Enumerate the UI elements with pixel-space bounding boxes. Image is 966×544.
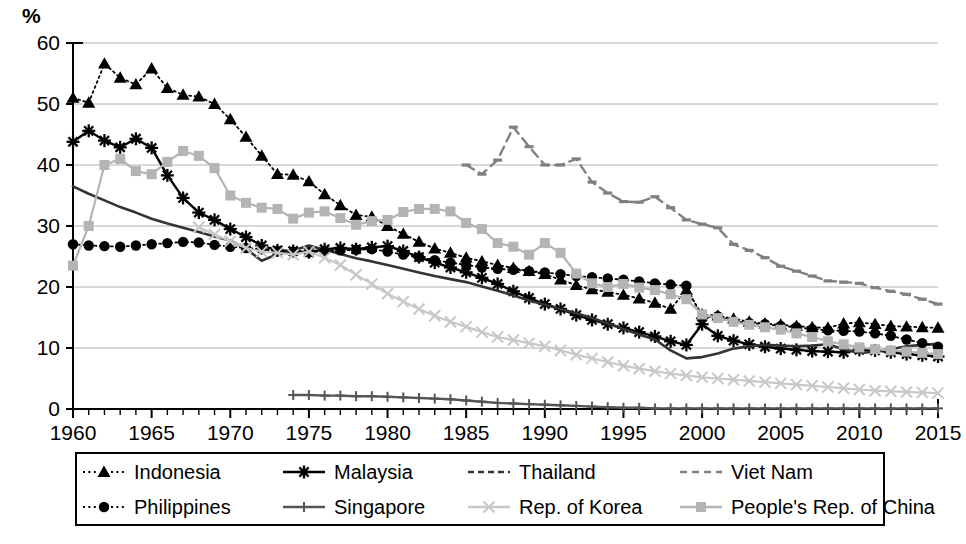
legend-swatch xyxy=(678,497,724,517)
data-marker xyxy=(414,303,425,314)
data-marker xyxy=(304,208,314,218)
data-marker xyxy=(681,294,691,304)
legend-label: Viet Nam xyxy=(731,462,813,482)
data-marker xyxy=(855,282,864,285)
data-marker xyxy=(145,62,158,73)
data-marker xyxy=(475,271,488,284)
data-marker xyxy=(886,403,896,413)
data-marker xyxy=(461,260,471,270)
x-axis-tick-label: 2015 xyxy=(898,422,966,443)
data-marker xyxy=(727,334,740,347)
data-marker xyxy=(445,394,455,404)
light-line-x-marker-icon xyxy=(466,497,512,517)
data-marker xyxy=(178,237,188,247)
data-marker xyxy=(807,332,817,342)
legend-item[interactable]: Thailand xyxy=(466,454,678,489)
dashed-dark-line-icon xyxy=(466,462,512,482)
data-marker xyxy=(696,502,706,512)
legend-label: Philippines xyxy=(134,497,231,517)
data-marker xyxy=(429,310,440,321)
data-marker xyxy=(161,169,174,182)
data-marker xyxy=(320,206,330,216)
legend-item[interactable]: Indonesia xyxy=(81,454,281,489)
data-marker xyxy=(776,325,786,335)
data-marker xyxy=(98,134,111,147)
data-marker xyxy=(664,302,677,313)
x-axis-tick-label: 1960 xyxy=(33,422,113,443)
data-marker xyxy=(650,285,660,295)
legend-swatch xyxy=(466,497,512,517)
data-marker xyxy=(525,145,534,148)
legend-swatch xyxy=(281,497,327,517)
data-marker xyxy=(288,214,298,224)
data-marker xyxy=(934,302,943,305)
legend-item[interactable]: Viet Nam xyxy=(678,454,888,489)
legend-item[interactable]: Philippines xyxy=(81,489,281,524)
data-marker xyxy=(147,169,157,179)
data-marker xyxy=(713,313,723,323)
data-marker xyxy=(115,154,125,164)
data-marker xyxy=(853,316,866,327)
data-marker xyxy=(508,265,518,275)
data-marker xyxy=(288,390,298,400)
data-marker xyxy=(382,246,392,256)
data-marker xyxy=(493,238,503,248)
data-marker xyxy=(178,146,188,156)
legend-item[interactable]: People's Rep. of China xyxy=(678,489,888,524)
data-marker xyxy=(774,342,787,355)
data-marker xyxy=(760,322,770,332)
data-marker xyxy=(854,403,864,413)
data-marker xyxy=(462,163,471,166)
data-marker xyxy=(194,151,204,161)
data-marker xyxy=(68,239,78,249)
x-axis-tick-label: 2010 xyxy=(819,422,899,443)
legend-swatch xyxy=(81,497,127,517)
data-marker xyxy=(461,321,472,332)
data-marker xyxy=(761,256,770,259)
data-marker xyxy=(588,180,597,183)
data-marker xyxy=(477,173,486,176)
data-marker xyxy=(177,88,190,99)
data-marker xyxy=(84,221,94,231)
data-marker xyxy=(901,334,911,344)
data-marker xyxy=(587,402,597,412)
data-marker xyxy=(367,244,377,254)
data-marker xyxy=(99,501,109,511)
data-marker xyxy=(304,390,314,400)
legend-item[interactable]: Singapore xyxy=(281,489,466,524)
legend-label: Indonesia xyxy=(134,462,221,482)
legend-label: Rep. of Korea xyxy=(519,497,642,517)
data-marker xyxy=(99,160,109,170)
data-marker xyxy=(697,309,707,319)
data-marker xyxy=(367,391,377,401)
data-marker xyxy=(729,317,739,327)
data-marker xyxy=(823,403,833,413)
data-marker xyxy=(681,403,691,413)
data-marker xyxy=(697,403,707,413)
data-marker xyxy=(791,328,801,338)
data-marker xyxy=(618,403,628,413)
data-marker xyxy=(886,345,896,355)
data-marker xyxy=(335,391,345,401)
data-marker xyxy=(744,320,754,330)
legend-item[interactable]: Rep. of Korea xyxy=(466,489,678,524)
data-marker xyxy=(131,166,141,176)
data-marker xyxy=(603,191,612,194)
data-marker xyxy=(713,403,723,413)
data-marker xyxy=(476,327,487,338)
data-marker xyxy=(445,316,456,327)
data-marker xyxy=(397,227,410,238)
data-marker xyxy=(886,290,895,293)
data-marker xyxy=(916,321,929,332)
data-marker xyxy=(933,349,943,359)
legend-label: Malaysia xyxy=(334,462,413,482)
chart-legend: IndonesiaMalaysiaThailandViet NamPhilipp… xyxy=(75,452,885,526)
legend-item[interactable]: Malaysia xyxy=(281,454,466,489)
gridlines xyxy=(73,43,938,348)
data-marker xyxy=(240,230,253,243)
x-axis-tick-label: 1995 xyxy=(583,422,663,443)
data-marker xyxy=(524,266,534,276)
data-marker xyxy=(131,240,141,250)
data-marker xyxy=(743,338,756,351)
data-marker xyxy=(492,264,502,274)
